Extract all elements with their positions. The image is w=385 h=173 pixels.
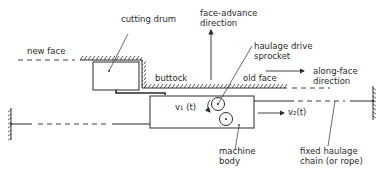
idler-sprocket bbox=[220, 113, 233, 126]
cutting-drum bbox=[93, 62, 139, 90]
old-face-label: old face bbox=[243, 74, 277, 84]
new-face-label: new face bbox=[27, 47, 65, 57]
left-anchor bbox=[8, 108, 12, 140]
buttock-label: buttock bbox=[155, 74, 187, 84]
along-face-label-2: direction bbox=[313, 77, 350, 87]
v2-label: v₂(t) bbox=[288, 108, 306, 118]
right-anchor bbox=[372, 86, 376, 120]
haulage-sprocket-label-2: sprocket bbox=[254, 52, 290, 62]
face-advance-label-2: direction bbox=[200, 19, 237, 29]
machine-body bbox=[150, 96, 254, 128]
ranging-arm bbox=[116, 90, 165, 95]
v1-label: v₁ (t) bbox=[175, 103, 196, 113]
old-face-hatch bbox=[142, 84, 330, 88]
machine-body-label-2: body bbox=[219, 157, 240, 167]
chain-leader bbox=[328, 101, 335, 146]
chain-label-2: chain (or rope) bbox=[300, 157, 363, 167]
cutting-drum-label: cutting drum bbox=[121, 15, 176, 25]
